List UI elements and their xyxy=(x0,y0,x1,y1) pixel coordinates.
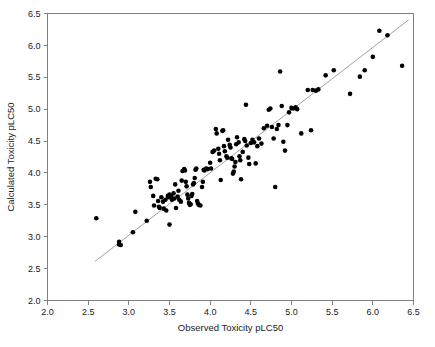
y-tick-label: 2.5 xyxy=(28,264,41,274)
data-point xyxy=(171,191,176,196)
data-point xyxy=(239,177,244,182)
data-point xyxy=(218,158,223,163)
data-point xyxy=(240,150,245,155)
data-point xyxy=(244,143,249,148)
data-point xyxy=(287,110,292,115)
data-point xyxy=(200,185,205,190)
data-point xyxy=(285,123,290,128)
y-tick-label: 2.0 xyxy=(28,296,41,306)
data-point xyxy=(118,243,123,248)
data-point xyxy=(176,189,181,194)
data-point xyxy=(188,202,193,207)
x-tick-label: 6.0 xyxy=(367,307,380,317)
data-point xyxy=(358,74,363,79)
x-tick-label: 4.5 xyxy=(245,307,258,317)
data-point xyxy=(198,203,203,208)
data-point xyxy=(377,28,382,33)
data-point xyxy=(148,180,153,185)
data-point xyxy=(385,33,390,38)
data-point xyxy=(144,218,149,223)
scatter-points-group xyxy=(94,28,404,247)
data-point xyxy=(183,180,188,185)
data-point xyxy=(276,123,281,128)
y-tick-label: 6.5 xyxy=(28,9,41,19)
y-tick-label: 5.0 xyxy=(28,104,41,114)
data-point xyxy=(281,139,286,144)
data-point xyxy=(228,145,233,150)
data-point xyxy=(283,148,288,153)
data-point xyxy=(131,230,136,235)
data-point xyxy=(214,127,219,132)
plot-canvas: 2.02.53.03.54.04.55.05.56.06.52.02.53.03… xyxy=(0,0,435,347)
data-point xyxy=(295,107,300,112)
data-point xyxy=(252,140,257,145)
data-point xyxy=(159,195,164,200)
y-tick-label: 4.5 xyxy=(28,136,41,146)
data-point xyxy=(362,68,367,73)
data-point xyxy=(348,92,353,97)
data-point xyxy=(270,125,275,130)
data-point xyxy=(192,176,197,181)
data-point xyxy=(232,164,237,169)
data-point xyxy=(209,166,214,171)
y-tick-label: 5.5 xyxy=(28,72,41,82)
data-point xyxy=(212,148,217,153)
data-point xyxy=(279,104,284,109)
data-point xyxy=(236,140,241,145)
data-point xyxy=(222,144,227,149)
data-point xyxy=(185,192,190,197)
data-point xyxy=(299,131,304,136)
y-tick-label: 3.0 xyxy=(28,232,41,242)
data-point xyxy=(268,106,273,111)
data-point xyxy=(216,146,221,151)
x-tick-label: 2.5 xyxy=(82,307,95,317)
data-point xyxy=(237,154,242,159)
data-point xyxy=(253,161,258,166)
data-point xyxy=(183,168,188,173)
data-point xyxy=(155,177,160,182)
data-point xyxy=(243,139,248,144)
data-point xyxy=(218,178,223,183)
x-tick-label: 3.0 xyxy=(123,307,136,317)
data-point xyxy=(167,222,172,227)
data-point xyxy=(271,136,276,141)
data-point xyxy=(223,149,228,154)
x-tick-label: 6.5 xyxy=(407,307,420,317)
x-tick-label: 2.0 xyxy=(41,307,54,317)
data-point xyxy=(244,102,249,107)
x-tick-label: 4.0 xyxy=(204,307,217,317)
data-point xyxy=(257,136,262,141)
data-point xyxy=(323,73,328,78)
x-tick-label: 3.5 xyxy=(163,307,176,317)
data-point xyxy=(184,184,189,189)
data-point xyxy=(190,192,195,197)
data-point xyxy=(174,206,179,211)
data-point xyxy=(148,185,153,190)
data-point xyxy=(164,208,169,213)
data-point xyxy=(173,182,178,187)
x-tick-label: 5.0 xyxy=(285,307,298,317)
scatter-chart: 2.02.53.03.54.04.55.05.56.06.52.02.53.03… xyxy=(0,0,435,347)
data-point xyxy=(217,152,222,157)
y-tick-label: 6.0 xyxy=(28,41,41,51)
data-point xyxy=(246,155,251,160)
data-point xyxy=(152,203,157,208)
data-point xyxy=(233,160,238,165)
data-point xyxy=(151,194,156,199)
data-point xyxy=(259,141,264,146)
data-point xyxy=(201,180,206,185)
data-point xyxy=(265,123,270,128)
data-point xyxy=(156,199,161,204)
data-point xyxy=(331,68,336,73)
data-point xyxy=(247,162,252,167)
data-point xyxy=(278,69,283,74)
data-point xyxy=(133,210,138,215)
data-point xyxy=(231,169,236,174)
data-point xyxy=(235,135,240,140)
data-point xyxy=(238,158,243,163)
data-point xyxy=(255,144,260,149)
data-point xyxy=(179,199,184,204)
y-axis-title: Calculated Toxicity pLC50 xyxy=(5,102,16,211)
data-point xyxy=(309,128,314,133)
data-point xyxy=(194,166,199,171)
